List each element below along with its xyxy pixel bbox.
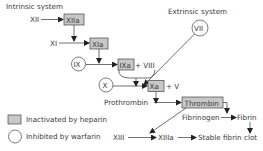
arrow-vii-xa <box>144 34 195 85</box>
legend-warfarin-label: Inhibited by warfarin <box>26 132 101 141</box>
stable-fibrin-clot: Stable fibrin clot <box>198 133 257 142</box>
intrinsic-system-label: Intrinsic system <box>6 2 63 11</box>
factor-xii: XII <box>30 15 39 24</box>
legend-heparin-swatch <box>8 115 21 124</box>
fibrinogen: Fibrinogen <box>182 113 220 122</box>
factor-vii: VII <box>194 24 203 33</box>
arrow-thrombin-xiiia <box>150 108 186 133</box>
factor-ixa: IXa <box>120 61 131 70</box>
factor-xiia: XIIa <box>66 16 80 25</box>
factor-xi: XI <box>50 39 57 48</box>
factor-xiiia: XIIIa <box>158 133 174 142</box>
factor-ix: IX <box>74 60 81 69</box>
legend-heparin-label: Inactivated by heparin <box>26 115 107 124</box>
factor-x: X <box>103 81 108 90</box>
fibrin: Fibrin <box>237 113 257 122</box>
factor-xa: Xa <box>150 82 159 91</box>
ixa-viii-bracket <box>119 70 155 78</box>
factor-xiii: XIII <box>113 133 124 142</box>
thrombin: Thrombin <box>184 99 219 108</box>
arrow-thrombin-fibrin <box>223 103 227 114</box>
extrinsic-system-label: Extrinsic system <box>168 7 227 16</box>
prothrombin: Prothrombin <box>104 98 148 107</box>
legend-warfarin-swatch <box>9 130 22 143</box>
coagulation-cascade-diagram: Intrinsic system Extrinsic system XII XI… <box>0 0 263 151</box>
factor-v: + V <box>166 82 179 91</box>
factor-xia: XIa <box>92 40 103 49</box>
factor-viii: + VIII <box>135 61 155 70</box>
